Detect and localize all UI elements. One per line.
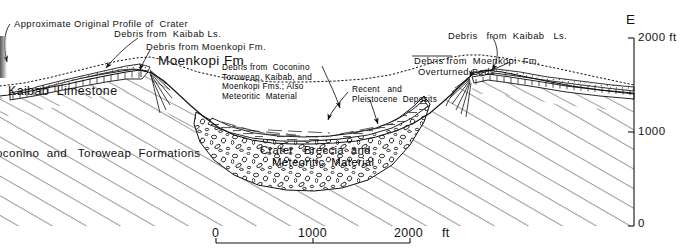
axis-tick-2000: 2000 ft bbox=[638, 31, 677, 43]
scale-tick-1000: 1000 bbox=[298, 226, 327, 240]
label-crater-breccia-line-1: Crater Breccia and bbox=[260, 144, 374, 156]
label-debris-kaibab-left: Debris from Kaibab Ls. bbox=[114, 28, 221, 39]
label-overturned-beds: Overturned Beds bbox=[418, 66, 495, 77]
label-debris-block: Debris from Coconino Toroweap, Kaibab, a… bbox=[222, 63, 312, 102]
cross-section-drawing bbox=[0, 0, 689, 252]
label-debris-kaibab-right: Debris from Kaibab Ls. bbox=[448, 30, 567, 41]
label-kaibab-limestone: Kaibab Limestone bbox=[8, 84, 117, 98]
label-debris-moenkopi-right: Debris from Moenkopi Fm. bbox=[414, 55, 540, 66]
label-debris-block-line-2: Toroweap, Kaibab, and bbox=[222, 73, 312, 83]
label-recent-deposits-line-1: Recent and bbox=[352, 85, 437, 95]
scale-unit: ft bbox=[442, 226, 450, 240]
axis-tick-1000: 1000 bbox=[638, 125, 666, 137]
cross-section-figure: Approximate Original Profile of Crater D… bbox=[0, 0, 689, 252]
label-crater-breccia-line-2: Meteoritic Material bbox=[260, 156, 374, 168]
axis-tick-0: 0 bbox=[638, 217, 645, 229]
label-debris-moenkopi-left: Debris from Moenkopi Fm. bbox=[146, 41, 266, 52]
scan-artifact bbox=[0, 36, 7, 78]
label-coconino-toroweap: oconino and Toroweap Formations bbox=[0, 146, 201, 159]
label-debris-block-line-1: Debris from Coconino bbox=[222, 63, 312, 73]
label-recent-deposits-line-2: Pleistocene Deposits bbox=[352, 95, 437, 105]
label-crater-breccia: Crater Breccia and Meteoritic Material bbox=[260, 144, 374, 169]
scale-tick-2000: 2000 bbox=[394, 226, 423, 240]
label-debris-block-line-4: Meteoritic Material bbox=[222, 92, 312, 102]
label-recent-deposits: Recent and Pleistocene Deposits bbox=[352, 85, 437, 104]
orientation-label-east: E bbox=[626, 12, 635, 27]
scale-tick-0: 0 bbox=[212, 226, 219, 240]
label-debris-block-line-3: Moenkopi Fms.; Also bbox=[222, 82, 312, 92]
